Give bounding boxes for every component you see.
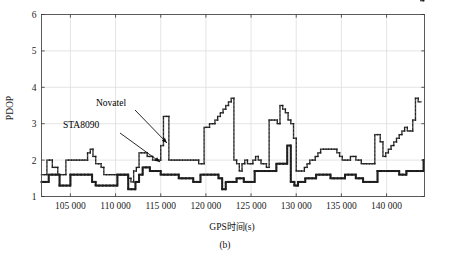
data-point (233, 153, 234, 154)
y-tick-label: 3 (32, 119, 37, 129)
data-point (92, 153, 93, 154)
data-point (168, 149, 169, 150)
data-point (315, 159, 316, 160)
data-point (160, 154, 161, 155)
data-point (279, 110, 280, 111)
x-tick-label: 115 000 (145, 201, 176, 211)
data-point (382, 149, 383, 150)
data-point (268, 125, 269, 126)
data-point (163, 137, 164, 138)
novatel-label: Novatel (96, 98, 126, 108)
data-point (168, 133, 169, 134)
data-point (362, 163, 363, 164)
data-point (168, 140, 169, 141)
data-point (91, 149, 92, 150)
data-point (394, 141, 395, 142)
data-point (176, 159, 177, 160)
data-point (52, 165, 53, 166)
data-point (279, 112, 280, 113)
data-point (279, 123, 280, 124)
data-point (296, 156, 297, 157)
data-point (232, 98, 233, 99)
data-point (133, 172, 134, 173)
data-point (50, 159, 51, 160)
data-point (363, 163, 364, 164)
data-point (46, 165, 47, 166)
data-point (306, 165, 307, 166)
data-point (416, 98, 417, 99)
data-point (168, 148, 169, 149)
data-point (285, 110, 286, 111)
data-point (163, 122, 164, 123)
data-point (160, 158, 161, 159)
data-point (385, 152, 386, 153)
data-point (138, 164, 139, 165)
data-point (304, 169, 305, 170)
data-point (374, 146, 375, 147)
data-point (350, 159, 351, 160)
data-point (415, 107, 416, 108)
data-point (282, 105, 283, 106)
data-point (203, 132, 204, 133)
data-point (138, 167, 139, 168)
data-point (412, 122, 413, 123)
data-point (382, 153, 383, 154)
data-point (399, 134, 400, 135)
data-point (239, 167, 240, 168)
data-point (268, 159, 269, 160)
data-point (92, 154, 93, 155)
data-point (247, 163, 248, 164)
data-point (268, 119, 269, 120)
data-point (313, 159, 314, 160)
data-point (98, 163, 99, 164)
x-tick-label: 125 000 (236, 201, 267, 211)
x-tick-label: 130 000 (281, 201, 312, 211)
data-point (320, 152, 321, 153)
data-point (382, 156, 383, 157)
data-point (133, 176, 134, 177)
data-point (65, 174, 66, 175)
data-point (380, 138, 381, 139)
data-point (374, 139, 375, 140)
data-point (233, 108, 234, 109)
data-point (386, 152, 387, 153)
data-point (296, 169, 297, 170)
data-point (65, 167, 66, 168)
data-point (396, 141, 397, 142)
data-point (46, 169, 47, 170)
data-point (203, 135, 204, 136)
data-point (244, 162, 245, 163)
data-point (168, 131, 169, 132)
data-point (412, 121, 413, 122)
data-point (268, 167, 269, 168)
data-point (374, 156, 375, 157)
data-point (357, 159, 358, 160)
data-point (168, 152, 169, 153)
data-point (148, 156, 149, 157)
data-point (415, 100, 416, 101)
data-point (256, 156, 257, 157)
data-point (168, 151, 169, 152)
data-point (44, 174, 45, 175)
data-point (390, 147, 391, 148)
data-point (354, 156, 355, 157)
data-point (228, 103, 229, 104)
data-point (233, 123, 234, 124)
data-point (80, 159, 81, 160)
data-point (317, 156, 318, 157)
data-point (133, 177, 134, 178)
data-point (267, 167, 268, 168)
data-point (136, 167, 137, 168)
data-point (203, 146, 204, 147)
data-point (260, 159, 261, 160)
data-point (268, 144, 269, 145)
data-point (254, 159, 255, 160)
x-tick-label: 105 000 (55, 201, 86, 211)
data-point (305, 167, 306, 168)
data-point (95, 160, 96, 161)
data-point (340, 156, 341, 157)
data-point (339, 152, 340, 153)
data-point (296, 142, 297, 143)
data-point (331, 149, 332, 150)
data-point (268, 165, 269, 166)
